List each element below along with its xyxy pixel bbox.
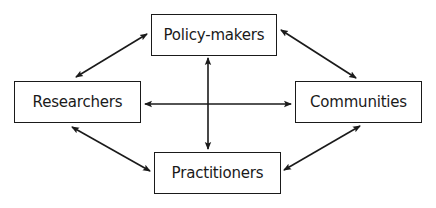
node-label: Researchers (33, 93, 123, 111)
node-researchers: Researchers (14, 81, 141, 123)
arrow-researchers-policy (76, 34, 147, 77)
node-communities: Communities (295, 81, 422, 123)
node-label: Practitioners (172, 164, 264, 182)
arrow-policy-communities (281, 30, 356, 78)
node-policy-makers: Policy-makers (151, 14, 277, 56)
arrow-researchers-practitioners (72, 127, 150, 171)
diagram-canvas: Policy-makers Researchers Communities Pr… (0, 0, 436, 208)
node-label: Policy-makers (164, 26, 265, 44)
arrow-communities-practitioners (284, 126, 360, 170)
node-label: Communities (310, 93, 407, 111)
node-practitioners: Practitioners (154, 152, 281, 194)
